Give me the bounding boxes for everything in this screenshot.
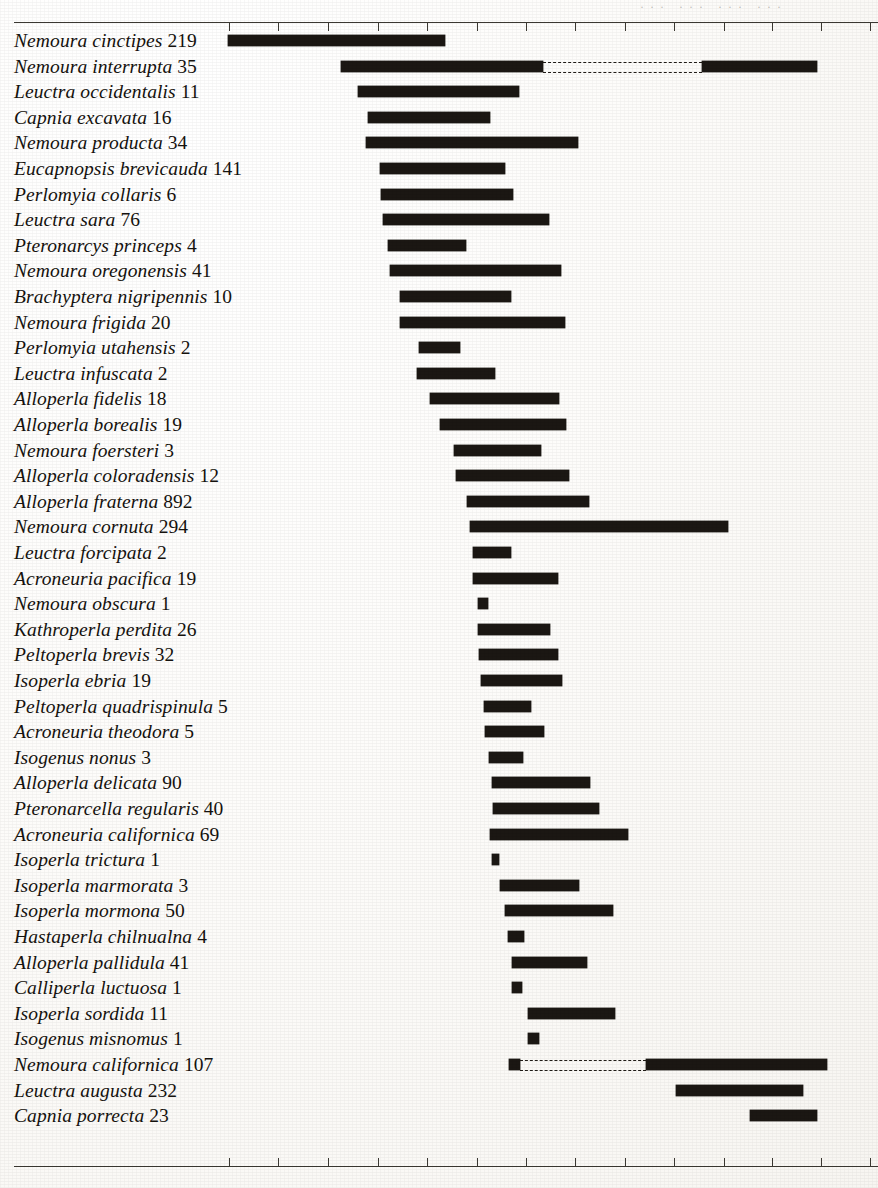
species-name: Alloperla coloradensis xyxy=(14,465,194,486)
species-row[interactable]: Nemoura producta34 xyxy=(0,132,878,158)
species-count: 2 xyxy=(152,542,167,563)
species-count: 35 xyxy=(172,56,197,77)
species-label: Peltoperla quadrispinula5 xyxy=(14,696,228,718)
species-label: Nemoura cornuta294 xyxy=(14,516,188,538)
species-name: Pteronarcella regularis xyxy=(14,798,199,819)
species-row[interactable]: Hastaperla chilnualna4 xyxy=(0,926,878,952)
species-row[interactable]: Isoperla marmorata3 xyxy=(0,875,878,901)
axis-tick-bottom-6 xyxy=(526,1158,527,1167)
range-bar-segment xyxy=(473,547,511,558)
species-name: Isoperla sordida xyxy=(14,1003,144,1024)
species-label: Alloperla fidelis18 xyxy=(14,388,166,410)
species-name: Leuctra augusta xyxy=(14,1080,143,1101)
range-bar-segment xyxy=(512,957,587,968)
species-row[interactable]: Alloperla fidelis18 xyxy=(0,388,878,414)
species-row[interactable]: Leuctra sara76 xyxy=(0,209,878,235)
species-name: Isoperla marmorata xyxy=(14,875,173,896)
species-row[interactable]: Nemoura cornuta294 xyxy=(0,516,878,542)
range-bar-segment xyxy=(366,137,578,148)
species-row[interactable]: Capnia excavata16 xyxy=(0,107,878,133)
species-row[interactable]: Pteronarcys princeps4 xyxy=(0,235,878,261)
range-bar-segment xyxy=(481,675,562,686)
species-row[interactable]: Isogenus nonus3 xyxy=(0,747,878,773)
species-label: Perlomyia collaris6 xyxy=(14,184,176,206)
species-row[interactable]: Nemoura californica107 xyxy=(0,1054,878,1080)
species-name: Alloperla delicata xyxy=(14,772,157,793)
species-count: 34 xyxy=(163,132,188,153)
range-bar-segment xyxy=(470,521,728,532)
species-count: 26 xyxy=(172,619,197,640)
axis-tick-bottom-8 xyxy=(625,1158,626,1167)
species-count: 892 xyxy=(158,491,192,512)
species-count: 16 xyxy=(147,107,172,128)
species-name: Alloperla borealis xyxy=(14,414,158,435)
species-row[interactable]: Alloperla fraterna892 xyxy=(0,491,878,517)
species-count: 1 xyxy=(168,1028,183,1049)
species-count: 10 xyxy=(207,286,232,307)
species-row[interactable]: Isoperla sordida11 xyxy=(0,1003,878,1029)
species-row[interactable]: Pteronarcella regularis40 xyxy=(0,798,878,824)
axis-tick-bottom-4 xyxy=(427,1158,428,1167)
range-bar-segment xyxy=(381,189,513,200)
axis-tick-bottom-7 xyxy=(575,1158,576,1167)
species-row[interactable]: Alloperla coloradensis12 xyxy=(0,465,878,491)
axis-tick-bottom-9 xyxy=(674,1158,675,1167)
species-row[interactable]: Nemoura cinctipes219 xyxy=(0,30,878,56)
species-count: 3 xyxy=(136,747,151,768)
range-bar-segment xyxy=(478,624,550,635)
species-row[interactable]: Leuctra augusta232 xyxy=(0,1080,878,1106)
species-name: Isogenus nonus xyxy=(14,747,136,768)
species-row[interactable]: Alloperla pallidula41 xyxy=(0,952,878,978)
species-row[interactable]: Leuctra forcipata2 xyxy=(0,542,878,568)
species-row[interactable]: Isoperla trictura1 xyxy=(0,849,878,875)
species-label: Acroneuria pacifica19 xyxy=(14,568,196,590)
species-name: Perlomyia utahensis xyxy=(14,337,176,358)
species-row[interactable]: Brachyptera nigripennis10 xyxy=(0,286,878,312)
species-name: Alloperla fraterna xyxy=(14,491,158,512)
species-row[interactable]: Alloperla borealis19 xyxy=(0,414,878,440)
species-row[interactable]: Peltoperla brevis32 xyxy=(0,644,878,670)
species-row[interactable]: Nemoura oregonensis41 xyxy=(0,260,878,286)
range-bar-segment xyxy=(383,214,549,225)
species-label: Hastaperla chilnualna4 xyxy=(14,926,207,948)
species-count: 18 xyxy=(142,388,167,409)
species-count: 6 xyxy=(162,184,177,205)
species-label: Nemoura interrupta35 xyxy=(14,56,197,78)
range-bar-segment xyxy=(467,496,589,507)
species-row[interactable]: Acroneuria theodora5 xyxy=(0,721,878,747)
species-row[interactable]: Capnia porrecta23 xyxy=(0,1105,878,1131)
species-row[interactable]: Nemoura obscura1 xyxy=(0,593,878,619)
species-name: Brachyptera nigripennis xyxy=(14,286,207,307)
range-bar-segment xyxy=(417,368,495,379)
species-row[interactable]: Calliperla luctuosa1 xyxy=(0,977,878,1003)
species-row[interactable]: Nemoura interrupta35 xyxy=(0,56,878,82)
species-count: 219 xyxy=(162,30,196,51)
species-row[interactable]: Isogenus misnomus1 xyxy=(0,1028,878,1054)
species-row[interactable]: Alloperla delicata90 xyxy=(0,772,878,798)
species-row[interactable]: Isoperla mormona50 xyxy=(0,900,878,926)
species-row[interactable]: Leuctra infuscata2 xyxy=(0,363,878,389)
species-label: Leuctra infuscata2 xyxy=(14,363,167,385)
species-row[interactable]: Eucapnopsis brevicauda141 xyxy=(0,158,878,184)
species-row[interactable]: Acroneuria californica69 xyxy=(0,824,878,850)
range-bar-segment xyxy=(228,35,445,46)
species-row[interactable]: Peltoperla quadrispinula5 xyxy=(0,696,878,722)
species-row[interactable]: Perlomyia collaris6 xyxy=(0,184,878,210)
species-row[interactable]: Nemoura frigida20 xyxy=(0,312,878,338)
axis-tick-bottom-1 xyxy=(278,1158,279,1167)
species-label: Pteronarcys princeps4 xyxy=(14,235,197,257)
species-row[interactable]: Isoperla ebria19 xyxy=(0,670,878,696)
species-row[interactable]: Kathroperla perdita26 xyxy=(0,619,878,645)
species-row[interactable]: Acroneuria pacifica19 xyxy=(0,568,878,594)
species-count: 2 xyxy=(176,337,191,358)
species-row[interactable]: Perlomyia utahensis2 xyxy=(0,337,878,363)
species-name: Capnia excavata xyxy=(14,107,147,128)
range-bar-segment xyxy=(478,598,488,609)
species-row[interactable]: Leuctra occidentalis11 xyxy=(0,81,878,107)
species-row[interactable]: Nemoura foersteri3 xyxy=(0,440,878,466)
axis-tick-bottom-0 xyxy=(229,1158,230,1167)
species-count: 50 xyxy=(160,900,185,921)
range-bar-segment xyxy=(419,342,460,353)
species-count: 2 xyxy=(153,363,168,384)
species-count: 4 xyxy=(192,926,207,947)
